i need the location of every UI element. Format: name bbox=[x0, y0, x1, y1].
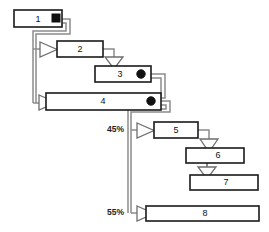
junction-marker-node-3 bbox=[137, 70, 145, 78]
edge-node2-to-node3 bbox=[103, 49, 114, 57]
arrowhead-into-node2 bbox=[40, 42, 57, 57]
edge-node4-rail-inner bbox=[128, 105, 166, 213]
node-8-label: 8 bbox=[202, 208, 207, 218]
edge-node4-rail-outer bbox=[131, 101, 170, 213]
node-5-label: 5 bbox=[173, 125, 178, 135]
edge-node5-to-node6 bbox=[198, 130, 209, 139]
node-4-label: 4 bbox=[100, 96, 105, 106]
node-1-label: 1 bbox=[35, 14, 40, 24]
node-2[interactable]: 2 bbox=[57, 41, 103, 57]
source-marker-node-1 bbox=[52, 14, 60, 22]
node-3-label: 3 bbox=[117, 69, 122, 79]
node-5[interactable]: 5 bbox=[154, 122, 198, 138]
node-4[interactable]: 4 bbox=[46, 93, 161, 110]
node-7[interactable]: 7 bbox=[190, 175, 258, 190]
edge-label-45-percent: 45% bbox=[107, 124, 124, 134]
marker-layer bbox=[52, 14, 155, 105]
diagram-canvas: 1 2 3 4 5 6 7 bbox=[0, 0, 269, 232]
edge-node1-rail-inner bbox=[33, 23, 66, 103]
edge-label-layer: 45% 55% bbox=[107, 124, 124, 217]
node-8[interactable]: 8 bbox=[146, 206, 259, 221]
arrowhead-into-node5 bbox=[137, 123, 154, 138]
junction-marker-node-4 bbox=[147, 97, 155, 105]
node-2-label: 2 bbox=[77, 44, 82, 54]
node-6-label: 6 bbox=[215, 150, 220, 160]
node-6[interactable]: 6 bbox=[186, 148, 244, 163]
node-layer: 1 2 3 4 5 6 7 bbox=[14, 10, 259, 221]
edge-label-55-percent: 55% bbox=[107, 207, 124, 217]
node-7-label: 7 bbox=[223, 177, 228, 187]
